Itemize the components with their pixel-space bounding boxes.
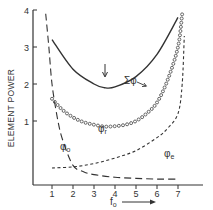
series-phi-o <box>46 14 178 179</box>
element-power-chart: 1234 1234567 ELEMENT POWER fo Σφ φr φo φ… <box>0 0 213 210</box>
x-tick-label: 6 <box>154 189 159 199</box>
x-tick-label: 7 <box>175 189 180 199</box>
y-tick-label: 2 <box>24 80 29 90</box>
series-sum-phi <box>52 17 178 88</box>
x-tick-label: 2 <box>70 189 75 199</box>
x-tick-label: 4 <box>112 189 117 199</box>
sum-phi-label: Σφ <box>124 75 147 87</box>
y-tick-label: 4 <box>24 6 29 16</box>
svg-text:Σφ: Σφ <box>124 75 137 86</box>
axes <box>33 10 203 185</box>
minimum-marker-icon <box>103 64 108 77</box>
x-tick-label: 5 <box>133 189 138 199</box>
y-tick-label: 3 <box>24 43 29 53</box>
y-axis-label: ELEMENT POWER <box>6 69 16 147</box>
x-ticks: 1234567 <box>49 185 180 199</box>
x-tick-label: 1 <box>49 189 54 199</box>
x-tick-label: 3 <box>91 189 96 199</box>
y-ticks: 1234 <box>24 6 37 127</box>
arrowhead-icon <box>150 200 156 205</box>
phi-o-label: φo <box>60 141 70 153</box>
y-tick-label: 1 <box>24 117 29 127</box>
phi-e-label: φe <box>164 148 174 160</box>
series-phi-r <box>51 13 184 128</box>
